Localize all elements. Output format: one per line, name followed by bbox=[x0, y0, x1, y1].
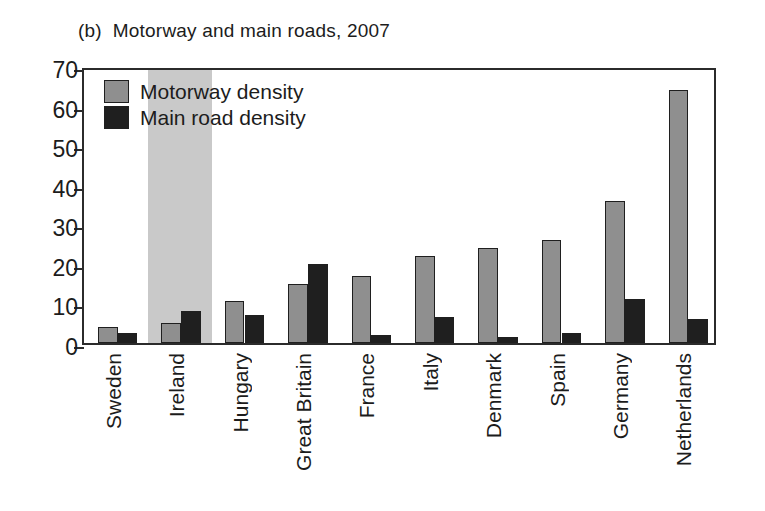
bar-main-road-spain bbox=[562, 333, 582, 343]
bar-group-france bbox=[352, 70, 391, 343]
y-tick-label: 10 bbox=[52, 296, 78, 319]
bar-group-germany bbox=[605, 70, 644, 343]
bar-main-road-ireland bbox=[181, 311, 201, 343]
bar-motorway-italy bbox=[415, 256, 435, 343]
y-tick-label: 60 bbox=[52, 98, 78, 121]
bar-group-italy bbox=[415, 70, 454, 343]
x-tick-label-great-britain: Great Britain bbox=[293, 353, 314, 471]
plot-area: 706050403020100 Motorway density Main ro… bbox=[82, 68, 716, 345]
bar-main-road-italy bbox=[435, 317, 455, 343]
x-tick-label-hungary: Hungary bbox=[230, 353, 251, 432]
x-tick-label-denmark: Denmark bbox=[483, 353, 504, 438]
legend-label-motorway: Motorway density bbox=[140, 81, 303, 102]
bar-motorway-ireland bbox=[161, 323, 181, 343]
x-tick-label-netherlands: Netherlands bbox=[673, 353, 694, 466]
x-tick-label-spain: Spain bbox=[547, 353, 568, 407]
bar-motorway-spain bbox=[542, 240, 562, 343]
legend-swatch-motorway bbox=[104, 80, 129, 103]
bar-motorway-france bbox=[352, 276, 372, 343]
x-tick-label-italy: Italy bbox=[420, 353, 441, 392]
panel-label: (b) bbox=[78, 20, 102, 41]
bar-group-denmark bbox=[478, 70, 517, 343]
figure-panel-b: (b)Motorway and main roads, 2007 7060504… bbox=[0, 0, 765, 511]
x-axis-labels: SwedenIrelandHungaryGreat BritainFranceI… bbox=[82, 345, 716, 505]
legend-item-main-road: Main road density bbox=[104, 106, 306, 129]
legend-swatch-main-road bbox=[104, 106, 129, 129]
bar-main-road-hungary bbox=[245, 315, 265, 343]
bar-motorway-sweden bbox=[98, 327, 118, 343]
bar-motorway-germany bbox=[605, 201, 625, 343]
y-tick-label: 20 bbox=[52, 256, 78, 279]
y-tick-label: 30 bbox=[52, 217, 78, 240]
bar-main-road-sweden bbox=[118, 333, 138, 343]
bar-main-road-netherlands bbox=[688, 319, 708, 343]
legend-item-motorway: Motorway density bbox=[104, 80, 306, 103]
bar-main-road-denmark bbox=[498, 337, 518, 343]
bar-motorway-denmark bbox=[478, 248, 498, 343]
x-tick-label-ireland: Ireland bbox=[166, 353, 187, 417]
x-tick-label-germany: Germany bbox=[610, 353, 631, 439]
legend-label-main-road: Main road density bbox=[140, 107, 306, 128]
bar-main-road-germany bbox=[625, 299, 645, 343]
y-tick-label: 50 bbox=[52, 138, 78, 161]
bar-motorway-netherlands bbox=[669, 90, 689, 343]
bar-motorway-hungary bbox=[225, 301, 245, 343]
y-tick-label: 0 bbox=[65, 336, 78, 359]
bar-main-road-france bbox=[371, 335, 391, 343]
chart-title-text: Motorway and main roads, 2007 bbox=[113, 20, 390, 41]
bar-motorway-great-britain bbox=[288, 284, 308, 343]
chart-legend: Motorway density Main road density bbox=[104, 80, 306, 132]
x-tick-label-sweden: Sweden bbox=[103, 353, 124, 429]
y-tick-label: 70 bbox=[52, 59, 78, 82]
chart-title: (b)Motorway and main roads, 2007 bbox=[78, 20, 390, 42]
x-tick-label-france: France bbox=[356, 353, 377, 418]
bar-group-netherlands bbox=[669, 70, 708, 343]
bar-group-spain bbox=[542, 70, 581, 343]
bar-main-road-great-britain bbox=[308, 264, 328, 343]
y-tick-label: 40 bbox=[52, 177, 78, 200]
